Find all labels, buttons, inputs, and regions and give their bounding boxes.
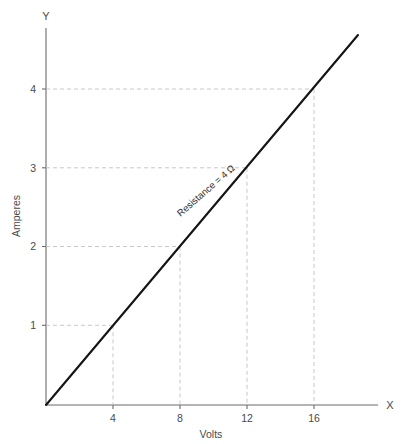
x-tick-label-4: 4 bbox=[110, 412, 116, 424]
y-tick-label-4: 4 bbox=[30, 83, 36, 95]
x-axis-title: Volts bbox=[200, 428, 223, 440]
x-tick-label-16: 16 bbox=[308, 412, 320, 424]
y-tick-label-2: 2 bbox=[30, 240, 36, 252]
axes-group bbox=[46, 28, 378, 405]
y-tick-label-3: 3 bbox=[30, 162, 36, 174]
y-axis-end-label: Y bbox=[42, 10, 50, 22]
axis-titles-group: Volts Amperes Y X bbox=[10, 10, 394, 440]
y-tick-labels-group: 1 2 3 4 bbox=[30, 83, 36, 332]
x-tick-label-12: 12 bbox=[241, 412, 253, 424]
data-series-group bbox=[46, 35, 358, 405]
x-tick-label-8: 8 bbox=[177, 412, 183, 424]
chart-container: 1 2 3 4 4 8 12 16 Volts Amperes Y X Resi… bbox=[0, 0, 417, 444]
y-axis-title: Amperes bbox=[10, 195, 22, 237]
x-tick-labels-group: 4 8 12 16 bbox=[110, 412, 320, 424]
y-tick-label-1: 1 bbox=[30, 319, 36, 331]
vertical-guides-group bbox=[113, 89, 314, 405]
ohms-law-data-line bbox=[46, 35, 358, 405]
x-axis-end-label: X bbox=[386, 399, 394, 411]
ohms-law-line-chart: 1 2 3 4 4 8 12 16 Volts Amperes Y X Resi… bbox=[0, 0, 417, 444]
